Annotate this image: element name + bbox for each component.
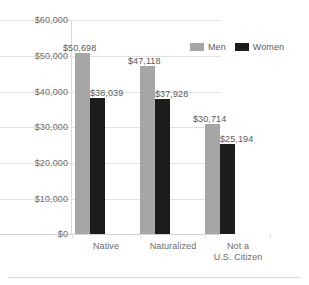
legend-entry-women: Women — [235, 42, 284, 52]
data-label-men-naturalized: $47,118 — [128, 56, 161, 66]
category-label-native: Native — [76, 241, 136, 252]
y-tick-label-50000: $50,000 — [6, 51, 68, 61]
data-label-women-naturalized: $37,928 — [155, 89, 188, 99]
bar-chart: $60,000 $50,000 $40,000 $30,000 $20,000 … — [0, 0, 309, 285]
data-label-women-native: $38,039 — [90, 88, 123, 98]
legend-label-women: Women — [253, 42, 284, 52]
legend-swatch-men-icon — [190, 43, 204, 51]
data-label-women-noncitizen: $25,194 — [220, 134, 253, 144]
category-label-noncitizen-line2: U.S. Citizen — [214, 252, 263, 262]
x-tick-1 — [140, 234, 141, 238]
data-label-men-noncitizen: $30,714 — [193, 114, 226, 124]
category-label-noncitizen-line1: Not a — [227, 241, 249, 251]
bar-men-native — [75, 53, 90, 234]
legend-label-men: Men — [208, 42, 226, 52]
bar-men-naturalized — [140, 66, 155, 234]
legend-swatch-women-icon — [235, 43, 249, 51]
bar-men-noncitizen — [205, 124, 220, 234]
y-tick-label-0: $0 — [6, 229, 68, 239]
legend: Men Women — [190, 42, 284, 52]
category-label-native-line1: Native — [93, 241, 119, 251]
y-tick-label-60000: $60,000 — [6, 15, 68, 25]
category-label-naturalized: Naturalized — [141, 241, 205, 252]
y-tick-label-10000: $10,000 — [6, 194, 68, 204]
x-tick-start — [72, 234, 73, 238]
bar-women-noncitizen — [220, 144, 235, 234]
x-tick-end — [270, 234, 271, 238]
y-tick-label-20000: $20,000 — [6, 158, 68, 168]
x-tick-2 — [205, 234, 206, 238]
bar-women-native — [90, 98, 105, 234]
bar-women-naturalized — [155, 99, 170, 234]
y-tick-label-30000: $30,000 — [6, 122, 68, 132]
bottom-separator — [8, 277, 301, 278]
category-label-noncitizen: Not a U.S. Citizen — [206, 241, 270, 263]
plot-area — [72, 20, 293, 234]
legend-entry-men: Men — [190, 42, 226, 52]
data-label-men-native: $50,698 — [63, 43, 96, 53]
y-tick-label-40000: $40,000 — [6, 87, 68, 97]
category-label-naturalized-line1: Naturalized — [150, 241, 197, 251]
